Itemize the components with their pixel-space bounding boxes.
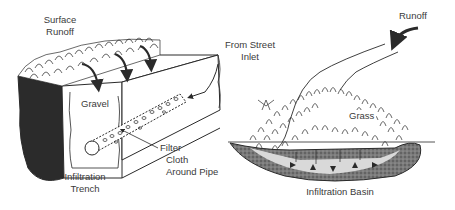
soil-side-face <box>18 76 64 180</box>
label-surface-runoff: Surface Runoff <box>30 14 90 38</box>
caption-infiltration-basin: Infiltration Basin <box>290 186 390 198</box>
runoff-arrow-icon <box>395 28 418 42</box>
caption-infiltration-trench: Infiltration Trench <box>50 171 120 195</box>
label-gravel: Gravel <box>81 98 109 110</box>
label-runoff: Runoff <box>399 10 427 22</box>
pipe-end <box>85 141 99 155</box>
label-grass: Grass <box>347 110 376 122</box>
label-filter-cloth: Filter Cloth Around Pipe <box>160 142 218 178</box>
runoff-flow-line <box>278 44 385 148</box>
label-from-street-inlet: From Street Inlet <box>215 39 285 63</box>
